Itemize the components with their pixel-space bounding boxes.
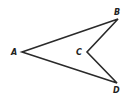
arrowhead-shape bbox=[22, 19, 118, 83]
vertex-label-a: A bbox=[10, 48, 17, 57]
vertex-label-d: D bbox=[113, 86, 120, 95]
vertex-label-c: C bbox=[76, 48, 82, 57]
diagram-canvas: A B C D bbox=[0, 0, 129, 103]
vertex-label-b: B bbox=[114, 8, 120, 17]
